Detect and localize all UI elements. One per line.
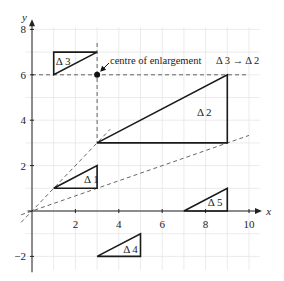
mapping-label: Δ 3 → Δ 2 bbox=[216, 55, 259, 66]
x-tick-label: 10 bbox=[244, 218, 256, 230]
x-tick-label: 6 bbox=[159, 218, 165, 230]
triangle-label: Δ 2 bbox=[197, 106, 212, 118]
x-tick-label: 2 bbox=[73, 218, 79, 230]
triangle-label: Δ 4 bbox=[123, 243, 138, 255]
triangle-label: Δ 1 bbox=[84, 173, 99, 185]
triangle-label: Δ 3 bbox=[56, 55, 71, 67]
centre-of-enlargement-point bbox=[94, 72, 100, 78]
y-tick-label: 2 bbox=[21, 160, 27, 172]
triangle-label: Δ 5 bbox=[208, 196, 223, 208]
y-tick-label: 6 bbox=[21, 69, 27, 81]
axes: x y bbox=[21, 11, 271, 272]
x-tick-label: 8 bbox=[203, 218, 209, 230]
triangle-t1: Δ 1 bbox=[54, 166, 99, 189]
y-tick-label: −2 bbox=[14, 250, 26, 262]
y-tick-label: 8 bbox=[21, 23, 27, 35]
y-axis-label: y bbox=[21, 11, 27, 23]
x-axis-label: x bbox=[265, 205, 271, 217]
x-axis-arrow-icon bbox=[255, 208, 262, 214]
y-tick-label: 4 bbox=[21, 114, 27, 126]
y-axis-arrow-icon bbox=[29, 19, 35, 26]
centre-of-enlargement-label: centre of enlargement bbox=[110, 55, 201, 66]
enlargement-diagram: x y 2468108642−2 Δ 1Δ 2Δ 3Δ 4Δ 5 centre … bbox=[0, 0, 284, 281]
x-tick-label: 4 bbox=[116, 218, 122, 230]
